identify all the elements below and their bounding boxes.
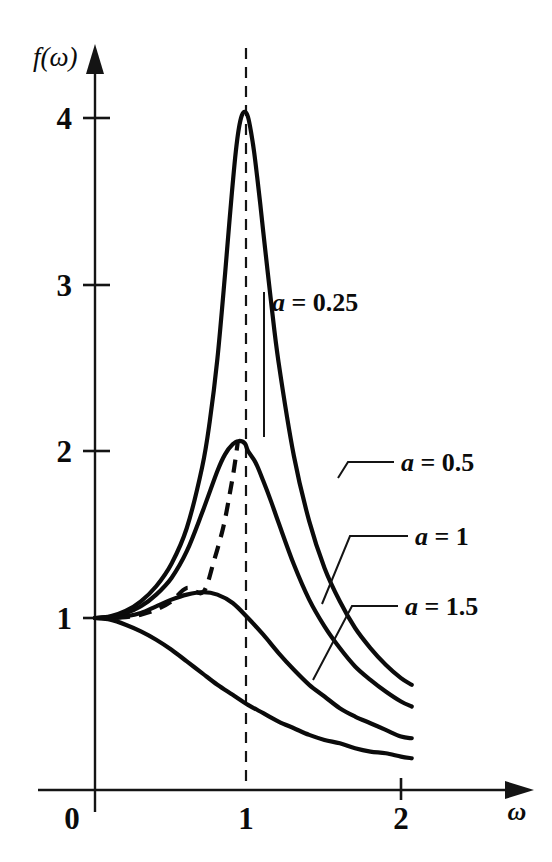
x-tick-label-1: 1 <box>238 801 254 836</box>
y-tick-label-1: 1 <box>57 601 73 636</box>
y-tick-label-2: 2 <box>57 434 73 469</box>
curve-label-a-0-5: a = 0.5 <box>401 448 474 477</box>
y-axis <box>86 44 104 812</box>
curves-group <box>95 112 412 759</box>
y-axis-title: f(ω) <box>33 42 78 72</box>
curve-label-a-0-25: a = 0.25 <box>272 288 358 317</box>
curve-a-0-5 <box>95 441 412 707</box>
curve-locus-of-maxima <box>95 440 238 618</box>
curve-label-a-1: a = 1 <box>415 522 469 551</box>
x-tick-label-2: 2 <box>393 801 409 836</box>
leader-lines <box>264 292 408 680</box>
curve-label-a-1-5: a = 1.5 <box>405 592 478 621</box>
x-axis-title: ω <box>508 797 527 826</box>
y-axis-arrow-icon <box>86 44 104 74</box>
leader-a-0-5 <box>338 462 394 478</box>
x-axis <box>38 781 534 799</box>
curve-a-0-25 <box>95 112 412 685</box>
resonance-chart: 4 3 2 1 0 1 2 f(ω) ω <box>0 0 552 862</box>
y-tick-label-3: 3 <box>57 268 73 303</box>
y-tick-label-4: 4 <box>57 101 73 136</box>
figure-container: 4 3 2 1 0 1 2 f(ω) ω <box>0 0 552 862</box>
y-tick-marks <box>83 118 110 618</box>
origin-label: 0 <box>64 801 80 836</box>
